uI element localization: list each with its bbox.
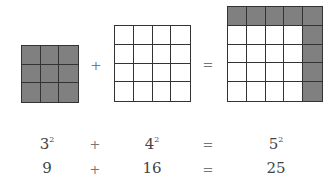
grid-cell	[284, 63, 303, 82]
grid-cell	[228, 82, 247, 101]
term-c-squared: 52	[269, 136, 284, 152]
grid-cell	[247, 26, 266, 45]
grid-cell	[284, 45, 303, 64]
grid-cell	[247, 82, 266, 101]
square-5x5-grid	[227, 6, 323, 102]
grid-cell	[284, 26, 303, 45]
grid-cell	[303, 7, 322, 26]
equals-sign: =	[203, 163, 214, 176]
grid-cell	[22, 83, 41, 102]
grid-cell	[266, 45, 285, 64]
value-c: 25	[266, 161, 285, 176]
grid-cell	[303, 63, 322, 82]
grid-cell	[59, 46, 78, 65]
grid-cell	[134, 26, 153, 45]
grid-cell	[284, 82, 303, 101]
grid-cell	[171, 45, 190, 64]
grid-cell	[41, 83, 60, 102]
grid-cell	[247, 45, 266, 64]
plus-sign: +	[90, 138, 101, 151]
grid-cell	[266, 7, 285, 26]
plus-sign: +	[91, 59, 102, 72]
value-b: 16	[142, 161, 161, 176]
grid-cell	[22, 46, 41, 65]
grid-cell	[115, 82, 134, 101]
grid-cell	[22, 65, 41, 84]
grid-cell	[153, 82, 172, 101]
grid-cell	[171, 64, 190, 83]
grid-cell	[171, 82, 190, 101]
equals-sign: =	[203, 58, 214, 71]
grid-cell	[134, 64, 153, 83]
grid-cell	[228, 45, 247, 64]
grid-cell	[115, 26, 134, 45]
grid-cell	[266, 26, 285, 45]
grid-cell	[228, 7, 247, 26]
grid-cell	[134, 45, 153, 64]
grid-cell	[115, 64, 134, 83]
grid-cell	[153, 64, 172, 83]
grid-cell	[284, 7, 303, 26]
value-a: 9	[42, 161, 52, 176]
grid-cell	[303, 45, 322, 64]
term-a-squared: 32	[40, 136, 55, 152]
grid-cell	[41, 65, 60, 84]
grid-cell	[228, 26, 247, 45]
grid-cell	[171, 26, 190, 45]
grid-cell	[228, 63, 247, 82]
term-b-squared: 42	[145, 136, 160, 152]
square-3x3-grid	[21, 45, 79, 103]
grid-cell	[247, 63, 266, 82]
grid-cell	[303, 26, 322, 45]
grid-cell	[59, 83, 78, 102]
grid-cell	[115, 45, 134, 64]
equals-sign: =	[203, 138, 214, 151]
grid-cell	[266, 82, 285, 101]
grid-cell	[153, 45, 172, 64]
grid-cell	[41, 46, 60, 65]
grid-cell	[153, 26, 172, 45]
plus-sign: +	[90, 163, 101, 176]
grid-cell	[59, 65, 78, 84]
square-4x4-grid	[114, 25, 191, 102]
grid-cell	[266, 63, 285, 82]
grid-cell	[134, 82, 153, 101]
grid-cell	[303, 82, 322, 101]
grid-cell	[247, 7, 266, 26]
